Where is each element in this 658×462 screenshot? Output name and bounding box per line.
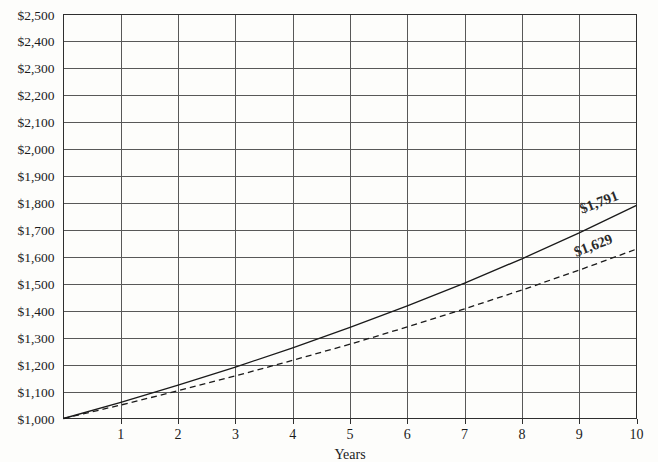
- x-axis-tick-label: 9: [576, 427, 583, 442]
- x-axis-title: Years: [334, 447, 365, 462]
- y-axis-tick-label: $1,500: [17, 277, 54, 292]
- y-axis-tick-label: $2,300: [17, 61, 54, 76]
- y-axis-tick-label: $2,200: [17, 88, 54, 103]
- x-axis-tick-label: 3: [232, 427, 239, 442]
- y-axis-tick-label: $2,400: [17, 34, 54, 49]
- x-axis-tick-label: 7: [461, 427, 468, 442]
- y-axis-tick-label: $1,700: [17, 223, 54, 238]
- y-axis-tick-label: $1,100: [17, 385, 54, 400]
- y-axis-tick-label: $2,000: [17, 142, 54, 157]
- x-axis-tick-label: 6: [404, 427, 411, 442]
- y-axis-tick-label: $2,100: [17, 115, 54, 130]
- x-axis-tick-label: 1: [117, 427, 124, 442]
- x-axis-tick-label: 8: [518, 427, 525, 442]
- x-axis-tick-label: 10: [630, 427, 644, 442]
- y-axis-tick-label: $2,500: [17, 8, 54, 23]
- y-axis-tick-label: $1,300: [17, 331, 54, 346]
- x-axis-tick-label: 5: [347, 427, 354, 442]
- y-axis-tick-label: $1,200: [17, 358, 54, 373]
- line-chart: $2,500$2,400$2,300$2,200$2,100$2,000$1,9…: [0, 0, 658, 462]
- y-axis-tick-label: $1,000: [17, 412, 54, 427]
- y-axis-tick-label: $1,600: [17, 250, 54, 265]
- y-axis-tick-label: $1,800: [17, 196, 54, 211]
- y-axis-tick-label: $1,400: [17, 304, 54, 319]
- chart-container: $2,500$2,400$2,300$2,200$2,100$2,000$1,9…: [0, 0, 658, 462]
- x-axis-tick-label: 4: [289, 427, 296, 442]
- y-axis-tick-label: $1,900: [17, 169, 54, 184]
- x-axis-tick-label: 2: [175, 427, 182, 442]
